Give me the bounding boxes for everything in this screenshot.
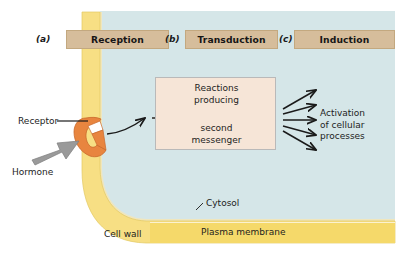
stage-marker-b: (b) xyxy=(165,35,180,44)
receptor-label: Receptor xyxy=(18,116,58,128)
activation-line-2: of cellular xyxy=(320,120,365,132)
reaction-box: Reactions producing second messenger xyxy=(155,77,276,150)
hormone-label: Hormone xyxy=(12,167,53,179)
cytosol-label: Cytosol xyxy=(206,198,239,210)
activation-line-1: Activation xyxy=(320,108,365,120)
activation-label: Activation of cellular processes xyxy=(320,108,365,143)
reaction-box-bottom-text: second messenger xyxy=(156,123,277,146)
figure-canvas: (a) Reception (b) Transduction (c) Induc… xyxy=(0,0,412,259)
stage-banner-induction[interactable]: Induction xyxy=(294,30,395,49)
hormone-arrow-icon xyxy=(32,141,79,165)
activation-line-3: processes xyxy=(320,131,365,143)
reaction-box-top-text: Reactions producing xyxy=(156,83,277,106)
cell-wall-label: Cell wall xyxy=(104,229,142,241)
stage-marker-a: (a) xyxy=(36,35,50,44)
reaction-line-messenger: messenger xyxy=(156,135,277,147)
plasma-membrane-label: Plasma membrane xyxy=(201,227,286,239)
stage-banner-transduction[interactable]: Transduction xyxy=(185,30,278,49)
reaction-line-producing: producing xyxy=(156,95,277,107)
reaction-line-reactions: Reactions xyxy=(156,83,277,95)
reaction-line-second: second xyxy=(156,123,277,135)
stage-marker-c: (c) xyxy=(279,35,293,44)
stage-banner-reception[interactable]: Reception xyxy=(66,30,169,49)
